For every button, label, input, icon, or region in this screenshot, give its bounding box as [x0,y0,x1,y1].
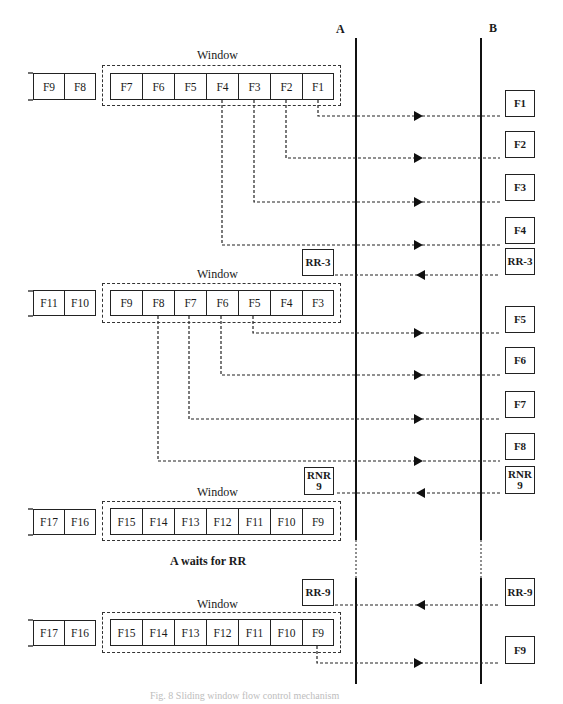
received-frame: F3 [505,174,535,201]
received-frame: F4 [505,217,535,244]
ack-rr9-received: RR-9 [505,578,535,606]
window-frame: F13 [174,508,207,535]
window-frame: F10 [270,619,303,646]
window-frame: F8 [142,290,175,316]
ack-rr3-path [335,270,500,280]
received-frame: F1 [505,90,535,117]
frame-paths-block2 [158,316,500,461]
ack-rr9-path [335,600,500,610]
queued-frame: F9 [33,73,65,100]
queued-frame: F16 [64,509,96,535]
window-frame: F10 [270,508,303,535]
ack-rr3-sent: RR-3 [302,249,334,276]
window-frame: F13 [174,619,207,646]
window-label: Window [197,597,238,612]
rnr-seq: 9 [316,481,322,492]
wait-note: A waits for RR [170,554,246,569]
window-frame: F5 [238,290,271,316]
station-a-label: A [336,22,345,37]
window-frame: F5 [174,73,207,100]
window-frame: F14 [142,619,175,646]
queued-frame: F17 [33,620,65,646]
ack-rr9-sent: RR-9 [302,579,334,606]
window-frame: F6 [142,73,175,100]
window-frame: F9 [110,290,143,316]
window-frame: F1 [302,73,334,100]
figure-caption: Fig. 8 Sliding window flow control mecha… [150,690,339,701]
window-frame: F9 [302,619,334,646]
arrowheads-block1 [414,111,423,250]
frame-paths-block1 [222,100,500,245]
received-frame: F8 [505,433,535,460]
ack-rnr9-path [337,488,500,498]
window-frame: F3 [238,73,271,100]
queue-ticks [28,73,33,646]
window-frame: F12 [206,619,239,646]
window-frame: F15 [110,619,143,646]
arrowheads-block2 [414,328,423,466]
window-label: Window [197,48,238,63]
window-frame: F12 [206,508,239,535]
window-frame: F2 [270,73,303,100]
window-frame: F3 [302,290,334,316]
window-frame: F7 [110,73,143,100]
station-b-label: B [489,21,497,36]
queued-frame: F16 [64,620,96,646]
window-frame: F14 [142,508,175,535]
queued-frame: F8 [64,73,96,100]
window-label: Window [197,267,238,282]
window-frame: F4 [270,290,303,316]
ack-rnr9-sent: RNR 9 [304,467,334,495]
window-label: Window [197,485,238,500]
window-frame: F15 [110,508,143,535]
window-frame: F11 [238,508,271,535]
ack-rnr9-received: RNR 9 [505,466,535,494]
window-frame: F6 [206,290,239,316]
window-frame: F9 [302,508,334,535]
frame-path-f9 [317,646,500,668]
queued-frame: F11 [33,290,65,316]
received-frame: F6 [505,347,535,374]
received-frame: F5 [505,306,535,333]
received-frame: F9 [505,636,535,664]
window-frame: F4 [206,73,239,100]
ack-rr3-received: RR-3 [505,248,535,275]
window-frame: F11 [238,619,271,646]
queued-frame: F10 [64,290,96,316]
queued-frame: F17 [33,509,65,535]
window-frame: F7 [174,290,207,316]
rnr-seq: 9 [517,480,523,491]
received-frame: F7 [505,391,535,418]
received-frame: F2 [505,131,535,158]
